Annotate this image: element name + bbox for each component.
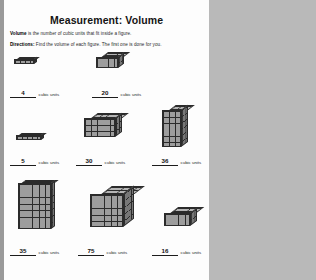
answer-blank[interactable]: 4 bbox=[10, 90, 36, 98]
directions-text: Find the volume of each figure. The firs… bbox=[35, 42, 162, 47]
cube-face-front bbox=[84, 118, 115, 137]
page-title: Measurement: Volume bbox=[4, 14, 209, 26]
answer-blank[interactable]: 16 bbox=[152, 248, 178, 256]
answer-row: 5cubic units bbox=[10, 158, 59, 166]
answer-row: 35cubic units bbox=[10, 248, 59, 256]
cube-figure bbox=[96, 52, 125, 68]
answer-units-label: cubic units bbox=[105, 160, 126, 166]
volume-definition-text: is the number of cubic units that fit in… bbox=[27, 31, 132, 36]
cube-face-side bbox=[118, 52, 124, 68]
cube-block bbox=[90, 186, 134, 227]
cube-block bbox=[18, 180, 55, 229]
cube-face-side bbox=[115, 113, 122, 137]
cube-figure bbox=[164, 207, 198, 226]
cube-face-front bbox=[96, 57, 118, 68]
answer-blank[interactable]: 30 bbox=[76, 158, 102, 166]
cube-figure bbox=[84, 113, 122, 137]
cube-block bbox=[164, 207, 198, 226]
cube-figure bbox=[14, 57, 37, 64]
cube-face-side bbox=[34, 57, 37, 64]
answer-units-label: cubic units bbox=[181, 250, 202, 256]
cube-face-side bbox=[41, 133, 44, 140]
answer-row: 20cubic units bbox=[92, 90, 141, 98]
cube-block bbox=[84, 113, 122, 137]
cube-block bbox=[162, 105, 187, 147]
answer-units-label: cubic units bbox=[39, 160, 60, 166]
directions: Directions: Find the volume of each figu… bbox=[10, 42, 209, 48]
volume-definition: Volume is the number of cubic units that… bbox=[10, 31, 209, 37]
answer-row: 36cubic units bbox=[152, 158, 201, 166]
answer-units-label: cubic units bbox=[181, 160, 202, 166]
answer-row: 30cubic units bbox=[76, 158, 125, 166]
cube-face-front bbox=[164, 213, 190, 226]
answer-row: 16cubic units bbox=[152, 248, 201, 256]
answer-units-label: cubic units bbox=[39, 250, 60, 256]
answer-row: 4cubic units bbox=[10, 90, 59, 98]
answer-units-label: cubic units bbox=[39, 92, 60, 98]
cube-face-side bbox=[181, 105, 188, 147]
answer-blank[interactable]: 36 bbox=[152, 158, 178, 166]
answer-blank[interactable]: 75 bbox=[78, 248, 104, 256]
cube-figure bbox=[18, 180, 55, 229]
cube-face-front bbox=[90, 194, 123, 227]
answer-units-label: cubic units bbox=[121, 92, 142, 98]
cube-figure bbox=[162, 105, 187, 147]
cube-face-front bbox=[162, 110, 181, 147]
answer-units-label: cubic units bbox=[107, 250, 128, 256]
cube-block bbox=[14, 57, 37, 64]
answer-blank[interactable]: 35 bbox=[10, 248, 36, 256]
cube-face-front bbox=[16, 135, 41, 140]
cube-figure bbox=[16, 133, 44, 140]
cube-face-side bbox=[51, 180, 55, 229]
worksheet-page: Measurement: Volume Volume is the number… bbox=[4, 0, 209, 280]
cube-face-side bbox=[123, 186, 134, 227]
answer-blank[interactable]: 20 bbox=[92, 90, 118, 98]
cube-block bbox=[96, 52, 125, 68]
cube-figure bbox=[90, 186, 134, 227]
cube-face-front bbox=[18, 183, 51, 229]
answer-blank[interactable]: 5 bbox=[10, 158, 36, 166]
cube-block bbox=[16, 133, 44, 140]
volume-definition-label: Volume bbox=[10, 31, 27, 36]
directions-label: Directions: bbox=[10, 42, 35, 47]
cube-face-front bbox=[14, 59, 34, 64]
answer-row: 75cubic units bbox=[78, 248, 127, 256]
